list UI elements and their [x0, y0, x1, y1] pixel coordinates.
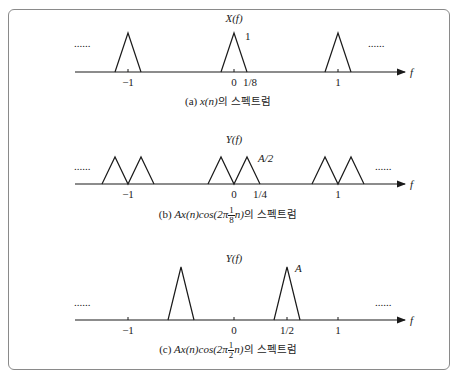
panel-c: Y(f) A −1 0 1/2 1 f ...... ......	[74, 252, 415, 336]
tick-label: 1	[335, 324, 341, 336]
caption-expression: Ax(n)cos(2π	[174, 343, 228, 355]
tick-label: 1/8	[243, 76, 258, 88]
ellipsis-right: ......	[368, 37, 385, 49]
axis-label: f	[410, 314, 415, 326]
tick-label: 0	[231, 324, 237, 336]
caption-expression: Ax(n)cos(2π	[174, 208, 228, 220]
spectrum-triangle	[115, 33, 141, 72]
tick-label: 0	[231, 188, 237, 200]
tick-label: 0	[231, 76, 237, 88]
caption-suffix: 의 스펙트럼	[244, 208, 297, 220]
panel-title: X(f)	[224, 12, 242, 25]
panel-title: Y(f)	[226, 252, 243, 265]
tick-label: −1	[122, 324, 134, 336]
caption-prefix: (b)	[159, 208, 175, 220]
caption-b: (b) Ax(n)cos(2π18n)의 스펙트럼	[0, 206, 456, 225]
spectrum-triangle-pair	[208, 157, 260, 184]
panel-b: Y(f) A/2 −1 0 1/4 1 f ...... ......	[74, 133, 415, 200]
peak-label: A	[294, 262, 302, 274]
ellipsis-right: ......	[375, 160, 392, 172]
peak-label: A/2	[257, 152, 274, 164]
ellipsis-left: ......	[74, 37, 91, 49]
tick-label: 1	[335, 76, 341, 88]
axis-label: f	[410, 178, 415, 190]
spectrum-triangle-pair	[312, 157, 364, 184]
caption-a: (a) x(n)의 스펙트럼	[0, 93, 456, 108]
caption-expression: n)	[235, 208, 244, 220]
caption-prefix: (a)	[185, 95, 200, 107]
tick-label: 1/2	[280, 324, 294, 336]
spectrum-triangle	[221, 33, 247, 72]
spectrum-triangle	[325, 33, 351, 72]
tick-label: 1/4	[253, 188, 268, 200]
caption-expression: x(n)	[200, 95, 218, 107]
tick-label: 1	[335, 188, 341, 200]
caption-suffix: 의 스펙트럼	[218, 95, 271, 107]
caption-suffix: 의 스펙트럼	[244, 343, 297, 355]
panel-a: X(f) 1 −1 0 1/8 1 f ...... ......	[74, 12, 415, 88]
tick-label: −1	[122, 188, 134, 200]
spectrum-triangle	[168, 267, 194, 320]
spectrum-triangle-pair	[102, 157, 154, 184]
caption-prefix: (c)	[159, 343, 174, 355]
axis-label: f	[410, 66, 415, 78]
spectrum-diagram: X(f) 1 −1 0 1/8 1 f ...... ...... Y(f) A…	[0, 0, 456, 380]
ellipsis-left: ......	[74, 296, 91, 308]
ellipsis-right: ......	[375, 296, 392, 308]
spectrum-triangle	[274, 267, 300, 320]
caption-c: (c) Ax(n)cos(2π12n)의 스펙트럼	[0, 341, 456, 360]
ellipsis-left: ......	[74, 160, 91, 172]
panel-title: Y(f)	[226, 133, 243, 146]
peak-label: 1	[245, 30, 251, 42]
caption-expression: n)	[234, 343, 243, 355]
tick-label: −1	[122, 76, 134, 88]
